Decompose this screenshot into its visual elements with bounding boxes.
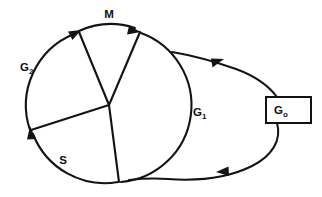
g0-label-main: G: [274, 104, 283, 116]
wedge-divider-m-g1: [109, 32, 140, 105]
g0-box-outline: [266, 97, 311, 123]
g2-phase-arc: [26, 34, 74, 130]
g0-loop-return-arrowhead-icon: [216, 167, 229, 177]
wedge-divider-g2-m: [79, 32, 109, 105]
g1-label-main: G: [193, 106, 202, 118]
cell-cycle-circle: [26, 24, 192, 183]
g0-loop-outbound-arrowhead-icon: [211, 59, 224, 68]
g0-loop-return-path: [129, 123, 278, 180]
g0-label-subscript: o: [283, 110, 288, 119]
g2-phase-label: G2: [20, 61, 34, 76]
s-phase-arc: [33, 134, 118, 183]
g2-label-subscript: 2: [29, 67, 34, 76]
g2-label-main: G: [20, 61, 29, 73]
g1-phase-arc: [121, 33, 191, 182]
g0-box[interactable]: Go: [266, 97, 311, 123]
s-phase-label: S: [59, 154, 67, 166]
g0-loop-outbound-path: [172, 52, 277, 97]
g1-phase-label: G1: [193, 106, 207, 121]
g1-label-subscript: 1: [202, 112, 207, 121]
wedge-divider-g1-s: [109, 105, 119, 182]
cell-cycle-diagram: Go M G2 S G1: [0, 0, 322, 197]
cell-cycle-canvas: Go M G2 S G1: [0, 0, 322, 197]
m-phase-arc: [79, 24, 135, 31]
wedge-divider-s-g2: [31, 105, 109, 130]
m-phase-label: M: [104, 8, 114, 20]
